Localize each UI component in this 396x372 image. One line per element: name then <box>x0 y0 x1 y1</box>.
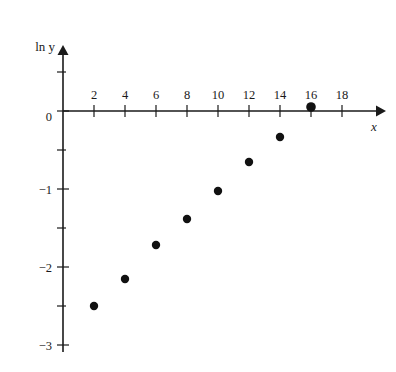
x-tick-label-2: 2 <box>91 88 97 102</box>
data-point <box>214 187 222 195</box>
chart-page: 2 4 6 8 10 12 14 16 18 0 −1 −2 −3 ln y x <box>0 0 396 372</box>
data-point-series <box>90 102 316 310</box>
y-tick-label-m2: −2 <box>39 261 52 275</box>
y-tick-label-0: 0 <box>46 110 52 124</box>
x-tick-label-16: 16 <box>305 88 318 102</box>
data-point <box>152 241 160 249</box>
x-axis-title: x <box>370 119 377 134</box>
y-tick-label-m3: −3 <box>39 339 52 353</box>
data-point <box>183 215 191 223</box>
x-tick-label-18: 18 <box>336 88 349 102</box>
data-point <box>121 275 129 283</box>
x-tick-label-6: 6 <box>153 88 159 102</box>
y-tick-label-m1: −1 <box>39 183 52 197</box>
x-tick-label-14: 14 <box>274 88 287 102</box>
scatter-plot: 2 4 6 8 10 12 14 16 18 0 −1 −2 −3 ln y x <box>0 0 396 372</box>
x-tick-labels: 2 4 6 8 10 12 14 16 18 <box>91 88 348 102</box>
x-axis-arrow-icon <box>376 106 386 117</box>
y-axis-title: ln y <box>35 39 55 54</box>
y-tick-labels: 0 −1 −2 −3 <box>39 110 52 353</box>
x-tick-label-8: 8 <box>184 88 190 102</box>
data-point <box>90 302 98 310</box>
data-point <box>306 102 316 112</box>
data-point <box>276 133 284 141</box>
x-tick-label-10: 10 <box>212 88 225 102</box>
data-point <box>245 158 253 166</box>
x-tick-label-4: 4 <box>122 88 129 102</box>
x-tick-label-12: 12 <box>243 88 256 102</box>
y-axis-arrow-icon <box>58 45 69 55</box>
